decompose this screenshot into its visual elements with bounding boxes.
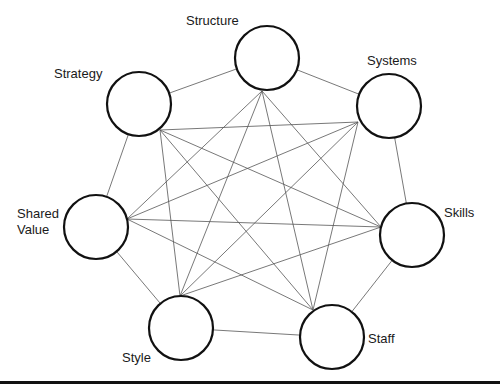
node-shared-value: [64, 195, 128, 259]
nodes: [64, 26, 444, 369]
edge-systems-staff: [313, 122, 358, 310]
edge-structure-systems: [297, 70, 359, 95]
edge-staff-strategy: [160, 130, 313, 310]
edge-skills-shared-value: [127, 219, 381, 227]
edge-systems-style: [180, 122, 358, 296]
edge-style-shared-value: [117, 251, 161, 303]
edge-shared-value-strategy: [107, 134, 129, 197]
label-style: Style: [122, 350, 151, 366]
edge-skills-staff: [352, 260, 393, 312]
seven-s-diagram: [0, 0, 500, 392]
node-staff: [300, 305, 364, 369]
label-shared-value: Shared Value: [17, 206, 59, 238]
node-skills: [380, 203, 444, 267]
node-systems: [357, 74, 421, 138]
label-strategy: Strategy: [54, 66, 102, 82]
edge-systems-strategy: [160, 122, 358, 130]
edge-structure-strategy: [169, 69, 237, 93]
node-style: [149, 296, 213, 360]
edge-staff-style: [213, 330, 300, 335]
edge-style-strategy: [160, 130, 180, 296]
label-structure: Structure: [186, 13, 239, 29]
edge-staff-shared-value: [127, 219, 313, 310]
edge-skills-strategy: [160, 130, 381, 227]
node-structure: [235, 26, 299, 90]
label-systems: Systems: [367, 53, 417, 69]
bottom-divider: [0, 381, 500, 384]
edge-systems-shared-value: [127, 122, 358, 219]
label-skills: Skills: [444, 205, 474, 221]
edge-skills-style: [180, 227, 381, 296]
label-staff: Staff: [368, 331, 395, 347]
edge-systems-skills: [395, 138, 407, 204]
node-strategy: [107, 72, 171, 136]
